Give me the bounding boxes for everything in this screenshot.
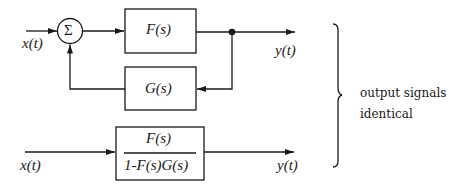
branch-point bbox=[229, 29, 236, 36]
brace bbox=[333, 24, 342, 167]
output-label-top: y(t) bbox=[275, 42, 296, 59]
numerator-label: F(s) bbox=[146, 130, 171, 147]
sum-symbol: Σ bbox=[64, 22, 73, 39]
input-label-bottom: x(t) bbox=[20, 157, 41, 174]
input-label-top: x(t) bbox=[22, 35, 43, 52]
output-label-bottom: y(t) bbox=[277, 157, 298, 174]
annotation-line-2: identical bbox=[360, 107, 413, 121]
feedback-path-left bbox=[70, 45, 125, 90]
feedback-path-right bbox=[197, 32, 232, 89]
f-block-top-label: F(s) bbox=[146, 21, 171, 38]
g-block-label: G(s) bbox=[145, 80, 172, 97]
annotation-line-1: output signals bbox=[360, 86, 446, 100]
denominator-label: 1-F(s)G(s) bbox=[124, 157, 188, 174]
